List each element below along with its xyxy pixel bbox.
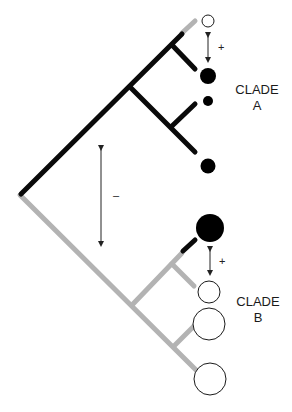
plus-sign-clade-b: +	[219, 255, 225, 267]
clade-a-label-line2: A	[234, 98, 280, 114]
tip-open-node	[202, 15, 214, 27]
tip-filled-node	[201, 159, 216, 174]
tip-filled-node	[200, 68, 216, 84]
clade-b-label-line1: CLADE	[235, 294, 281, 310]
clade-b-tips	[193, 214, 226, 395]
plus-sign-clade-a: +	[218, 41, 224, 53]
clade-a-label: CLADE A	[234, 82, 280, 114]
clade-b-label: CLADE B	[235, 294, 281, 326]
tip-filled-node	[203, 96, 213, 106]
phylogenetic-tree	[0, 0, 292, 412]
tip-open-node	[194, 363, 226, 395]
tip-open-node	[193, 308, 225, 340]
clade-a-label-line1: CLADE	[234, 82, 280, 98]
minus-sign: –	[113, 189, 119, 201]
tip-filled-node	[196, 214, 224, 242]
clade-b-label-line2: B	[235, 310, 281, 326]
tip-open-node	[198, 281, 220, 303]
clade-b-branches	[20, 21, 196, 370]
